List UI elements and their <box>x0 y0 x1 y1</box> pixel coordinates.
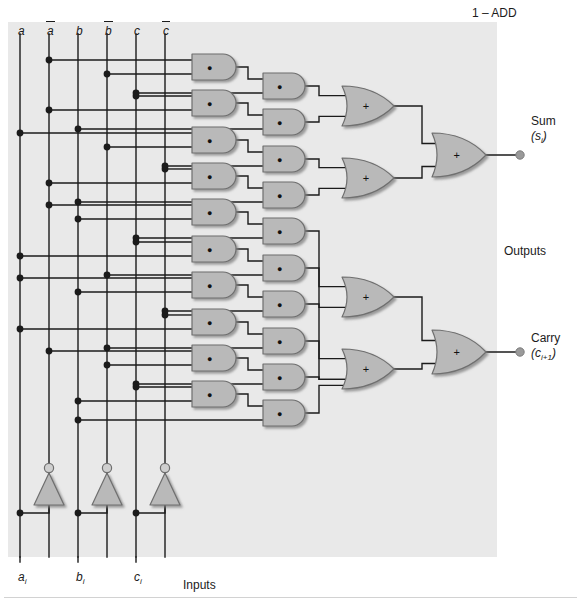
and-gate-col1-9-symbol: ● <box>207 354 212 364</box>
junction-layer <box>17 57 169 517</box>
wire-junction <box>75 510 82 517</box>
and-gate-col2-5: ● <box>263 218 305 244</box>
and-gate-col1-3-symbol: ● <box>207 136 212 146</box>
wire-junction <box>75 289 82 296</box>
output-terminal-carry[interactable] <box>516 348 524 356</box>
wire-junction <box>17 326 24 333</box>
or-gate-col4-2: + <box>432 330 486 374</box>
inverter-c-body <box>150 473 180 505</box>
and-gate-col1-3-body <box>192 127 236 153</box>
or-gate-col3-4-symbol: + <box>363 363 369 375</box>
wire-junction <box>133 90 140 97</box>
wire-junction <box>46 57 53 64</box>
and-gate-col2-7: ● <box>263 291 305 317</box>
bottom-rule <box>4 597 577 598</box>
or-gate-col4-1: + <box>432 133 486 177</box>
and-gate-col2-10-symbol: ● <box>277 409 282 419</box>
and-gate-col1-10: ● <box>192 381 236 407</box>
wire-junction <box>162 163 169 170</box>
or-gate-col3-1: + <box>342 86 394 126</box>
and-gate-col2-8-symbol: ● <box>277 337 282 347</box>
and-gate-col1-2-body <box>192 90 236 116</box>
wire-junction <box>75 417 82 424</box>
input-a-label: ai <box>18 570 26 586</box>
wire-junction <box>75 199 82 206</box>
and-gate-col2-6: ● <box>263 255 305 281</box>
bus-c-label: c <box>134 24 140 38</box>
wire-junction <box>17 130 24 137</box>
and-gate-col1-10-body <box>192 381 236 407</box>
wire-junction <box>104 272 111 279</box>
and-gate-col1-6: ● <box>192 236 236 262</box>
and-gate-col1-4: ● <box>192 163 236 189</box>
and-gate-col2-4: ● <box>263 182 305 208</box>
or-gate-col3-2-symbol: + <box>363 172 369 184</box>
bus-a-label: a <box>18 24 25 38</box>
and-gate-col1-5-body <box>192 199 236 225</box>
or-gate-col4-2-symbol: + <box>454 346 460 358</box>
inverter-b <box>92 463 122 505</box>
and-gate-col2-5-symbol: ● <box>277 227 282 237</box>
and-gate-col2-8-body <box>263 328 305 354</box>
inverter-a <box>34 463 64 505</box>
and-gate-col1-8-symbol: ● <box>207 318 212 328</box>
wire-junction <box>162 308 169 315</box>
bus-b-label: b <box>76 24 83 38</box>
output-carry-expression: (ci+1) <box>531 346 560 362</box>
wire-junction <box>104 144 111 151</box>
subscript: i+1 <box>541 353 552 362</box>
and-gate-col2-7-symbol: ● <box>277 300 282 310</box>
or-gate-col4-1-symbol: + <box>454 149 460 161</box>
input-c-label: ci <box>134 570 142 586</box>
and-gate-col2-3-body <box>263 146 305 172</box>
output-sum-name: Sum <box>531 114 556 128</box>
subscript: i <box>541 136 543 145</box>
wire-junction <box>17 510 24 517</box>
output-terminal-sum[interactable] <box>516 151 524 159</box>
and-gate-col2-6-symbol: ● <box>277 264 282 274</box>
and-gate-col1-6-body <box>192 236 236 262</box>
and-gate-col1-2-symbol: ● <box>207 99 212 109</box>
or-gate-col3-3: + <box>342 277 394 317</box>
output-sum-label: Sum(si) <box>531 114 556 145</box>
wire-junction <box>104 362 111 369</box>
and-gate-col1-8-body <box>192 309 236 335</box>
subscript: i <box>83 577 85 586</box>
and-gate-col2-2-symbol: ● <box>277 118 282 128</box>
and-gate-col2-1-symbol: ● <box>277 82 282 92</box>
wire-junction <box>46 180 53 187</box>
and-gate-col2-9-symbol: ● <box>277 373 282 383</box>
outputs-group-label: Outputs <box>504 244 546 258</box>
and-gate-col2-9-body <box>263 364 305 390</box>
and-gate-col1-2: ● <box>192 90 236 116</box>
and-gate-col1-7-symbol: ● <box>207 281 212 291</box>
wire-junction <box>104 345 111 352</box>
and-gate-col1-9: ● <box>192 345 236 371</box>
and-gate-col2-2-body <box>263 109 305 135</box>
wire-junction <box>104 71 111 78</box>
subscript: i <box>140 577 142 586</box>
or-gate-col3-4: + <box>342 349 394 389</box>
circuit-schematic: ●●●●●●●●●●●●●●●●●●●●++++++ <box>0 0 581 606</box>
and-gate-col2-10: ● <box>263 400 305 426</box>
and-gate-col1-3: ● <box>192 127 236 153</box>
and-gate-col2-3-symbol: ● <box>277 155 282 165</box>
output-sum-expression: (si) <box>531 129 556 145</box>
and-gate-col2-1-body <box>263 73 305 99</box>
and-gate-col2-7-body <box>263 291 305 317</box>
bus-b-bar-label: b <box>105 24 112 38</box>
and-gate-col1-6-symbol: ● <box>207 245 212 255</box>
and-gate-col2-5-body <box>263 218 305 244</box>
and-gate-col1-1: ● <box>192 54 236 80</box>
wire-junction <box>75 216 82 223</box>
wire-junction <box>46 348 53 355</box>
bus-c-bar-label: c <box>163 24 169 38</box>
or-gate-col3-2: + <box>342 158 394 198</box>
overbar-glyph: b <box>105 24 112 38</box>
gate-layer: ●●●●●●●●●●●●●●●●●●●●++++++ <box>34 54 486 505</box>
wire-junction <box>17 275 24 282</box>
and-gate-col1-8: ● <box>192 309 236 335</box>
figure-title: 1 – ADD <box>472 6 517 20</box>
and-gate-col2-4-body <box>263 182 305 208</box>
subscript: i <box>25 577 27 586</box>
